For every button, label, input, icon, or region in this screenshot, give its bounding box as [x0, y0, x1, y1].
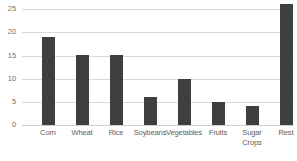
bars-layer	[22, 0, 294, 126]
x-tick-label-fruits-line1: Fruits	[209, 128, 227, 137]
y-tick-label-25: 25	[0, 5, 16, 13]
bar-vegetables[interactable]	[178, 79, 191, 125]
x-tick-label-sugar-crops-line1: Sugar	[242, 128, 262, 137]
bar-chart: 25 20 15 10 5 0 Corn Wheat	[0, 0, 297, 161]
bar-soybeans[interactable]	[144, 97, 157, 125]
y-tick-label-10: 10	[0, 75, 16, 83]
y-tick-label-0: 0	[0, 121, 16, 129]
y-tick-label-15: 15	[0, 52, 16, 60]
plot-area: 25 20 15 10 5 0	[22, 0, 294, 126]
x-tick-label-sugar-crops-line2: Crops	[226, 138, 278, 148]
y-tick-label-5: 5	[0, 98, 16, 106]
x-tick-label-rest-line1: Rest	[278, 128, 293, 137]
x-tick-label-corn-line1: Corn	[40, 128, 56, 137]
bar-rest[interactable]	[280, 4, 293, 125]
x-tick-label-rice-line1: Rice	[109, 128, 124, 137]
bar-wheat[interactable]	[76, 55, 89, 125]
bar-fruits[interactable]	[212, 102, 225, 125]
bar-rice[interactable]	[110, 55, 123, 125]
x-tick-label-rest: Rest	[260, 128, 297, 138]
x-axis-labels: Corn Wheat Rice Soybeans Vegetables Frui…	[22, 128, 294, 161]
bar-sugar-crops[interactable]	[246, 106, 259, 125]
bar-corn[interactable]	[42, 37, 55, 125]
y-tick-label-20: 20	[0, 28, 16, 36]
